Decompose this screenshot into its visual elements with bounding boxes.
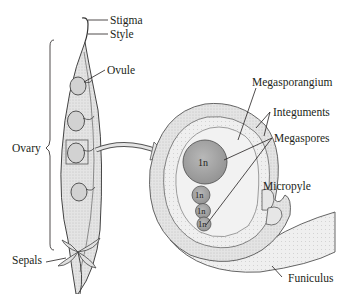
- megaspore-ploidy-4: 1n: [198, 219, 207, 229]
- megaspore-ploidy-3: 1n: [197, 206, 206, 216]
- label-megasporangium: Megasporangium: [252, 76, 333, 89]
- label-sepals: Sepals: [12, 254, 43, 267]
- ovule-diagram: 1n 1n 1n 1n Stigma Style Ovule Ovary Sep…: [0, 0, 352, 294]
- megaspore-ploidy-1: 1n: [198, 157, 208, 168]
- megaspore-ploidy-2: 1n: [195, 190, 204, 200]
- label-ovary: Ovary: [12, 142, 41, 155]
- label-integuments: Integuments: [273, 106, 330, 119]
- pistil: [58, 18, 102, 294]
- label-micropyle: Micropyle: [263, 180, 311, 193]
- stigma-shape: [82, 18, 88, 42]
- label-ovule: Ovule: [107, 64, 135, 76]
- label-funiculus: Funiculus: [288, 272, 334, 284]
- label-stigma: Stigma: [110, 14, 143, 27]
- label-style: Style: [110, 28, 134, 41]
- label-megaspores: Megaspores: [274, 132, 330, 145]
